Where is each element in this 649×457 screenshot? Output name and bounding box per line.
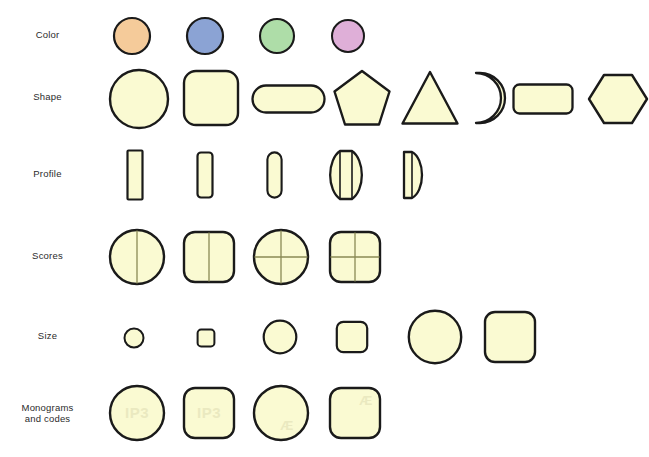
monogram-square-ip3: IP3: [182, 386, 236, 440]
row-color: Color: [0, 10, 629, 62]
shape-round: [108, 68, 170, 130]
row-label-monograms: Monograms and codes: [0, 402, 95, 424]
monogram-code-text: Æ: [359, 393, 373, 408]
size-circle-small: [123, 327, 145, 349]
size-square-large: [483, 310, 537, 364]
row-monograms: Monograms and codes IP3 IP3 Æ: [0, 382, 629, 448]
row-size: Size: [0, 305, 629, 363]
shape-half-circle: [468, 71, 500, 125]
shape-rectangle: [512, 83, 574, 115]
color-circle-purple: [330, 18, 366, 54]
shape-oblong: [251, 84, 326, 114]
row-label-monograms-line2: and codes: [0, 413, 95, 424]
score-circle-cross: [252, 228, 310, 286]
row-label-profile: Profile: [0, 168, 95, 179]
row-label-size: Size: [0, 330, 95, 341]
row-label-color: Color: [0, 29, 95, 40]
score-square-single: [182, 230, 236, 284]
size-circle-medium: [262, 319, 298, 355]
shape-square: [182, 69, 240, 127]
row-label-shape: Shape: [0, 91, 95, 102]
shape-triangle: [400, 70, 460, 126]
size-square-small: [196, 328, 216, 348]
row-shape: Shape: [0, 63, 629, 133]
row-label-size-text: Size: [38, 330, 57, 341]
score-circle-single: [108, 228, 166, 286]
color-circle-orange: [112, 16, 152, 56]
profile-biconvex: [330, 149, 362, 201]
color-circle-blue: [185, 16, 225, 56]
row-label-monograms-line1: Monograms: [0, 402, 95, 413]
score-square-cross: [328, 230, 382, 284]
profile-capsule: [266, 151, 283, 199]
monogram-circle-ip3: IP3: [108, 384, 166, 442]
size-square-medium: [335, 320, 369, 354]
shape-hexagon: [587, 73, 649, 125]
monogram-code-text: IP3: [125, 404, 149, 421]
row-label-color-text: Color: [36, 29, 60, 40]
row-label-scores-text: Scores: [32, 250, 63, 261]
row-scores: Scores: [0, 226, 629, 288]
monogram-code-text: IP3: [197, 404, 221, 421]
row-label-profile-text: Profile: [33, 168, 61, 179]
monogram-circle-ae: Æ: [252, 384, 310, 442]
profile-plano-convex: [400, 150, 426, 200]
color-circle-green: [258, 17, 296, 55]
profile-flat: [126, 149, 144, 201]
shape-pentagon: [332, 69, 392, 127]
row-profile: Profile: [0, 145, 629, 205]
monogram-square-ae: Æ: [328, 386, 382, 440]
profile-flat-bevelled: [196, 151, 214, 199]
monogram-code-text: Æ: [280, 418, 294, 433]
row-label-scores: Scores: [0, 250, 95, 261]
row-label-shape-text: Shape: [33, 91, 61, 102]
size-circle-large: [407, 309, 463, 365]
